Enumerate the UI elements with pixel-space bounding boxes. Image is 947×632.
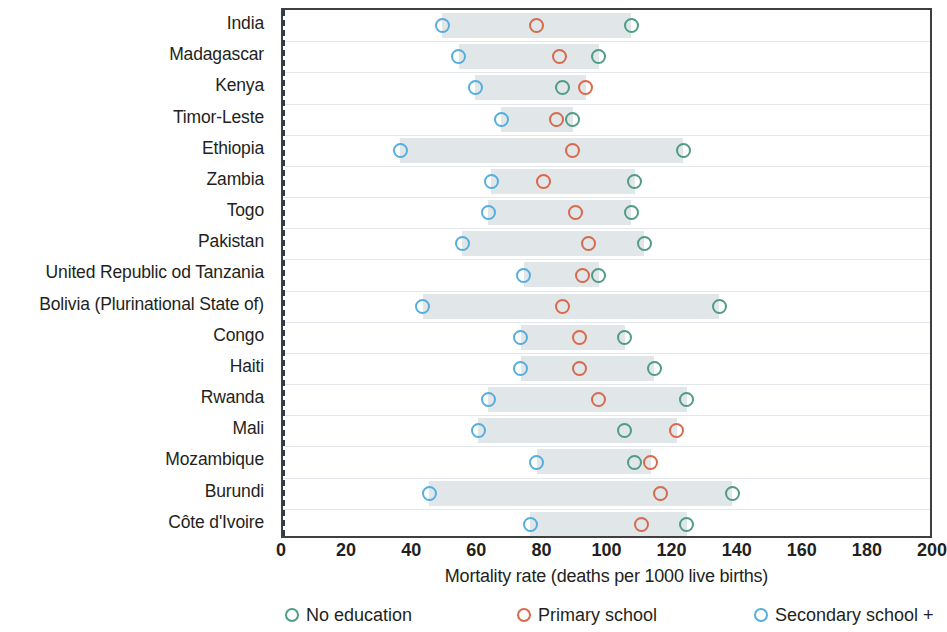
y-axis-label: Bolivia (Plurinational State of) (0, 289, 272, 320)
plot-area (281, 8, 932, 538)
x-axis-tick-label: 0 (276, 540, 286, 561)
legend-label: Primary school (538, 605, 657, 626)
data-point-marker[interactable] (653, 486, 668, 501)
chart-row (283, 197, 930, 228)
circle-outline-icon (285, 608, 299, 622)
chart-row (283, 509, 930, 538)
data-point-marker[interactable] (435, 18, 450, 33)
chart-row (283, 72, 930, 103)
plot-inner (283, 10, 930, 536)
y-axis-label: Timor-Leste (0, 102, 272, 133)
data-point-marker[interactable] (647, 361, 662, 376)
circle-outline-icon (517, 608, 531, 622)
data-point-marker[interactable] (513, 330, 528, 345)
data-point-marker[interactable] (725, 486, 740, 501)
range-band (488, 387, 687, 412)
x-axis-tick-label: 20 (336, 540, 356, 561)
data-point-marker[interactable] (627, 455, 642, 470)
data-point-marker[interactable] (565, 143, 580, 158)
y-axis-label: India (0, 8, 272, 39)
range-band (462, 231, 644, 256)
range-band (530, 512, 686, 537)
data-point-marker[interactable] (516, 268, 531, 283)
y-axis-label: Haiti (0, 351, 272, 382)
x-axis-tick-label: 200 (917, 540, 947, 561)
data-point-marker[interactable] (712, 299, 727, 314)
y-axis-label: Mozambique (0, 444, 272, 475)
y-axis-label: Mali (0, 413, 272, 444)
data-point-marker[interactable] (468, 80, 483, 95)
chart-row (283, 415, 930, 446)
chart-row (283, 135, 930, 166)
y-axis-label: Togo (0, 195, 272, 226)
y-axis-label: Madagascar (0, 39, 272, 70)
data-point-marker[interactable] (536, 174, 551, 189)
range-band (423, 294, 719, 319)
legend-item-primary-school[interactable]: Primary school (517, 605, 657, 626)
data-point-marker[interactable] (679, 392, 694, 407)
range-band (459, 44, 599, 69)
x-axis-tick-label: 120 (657, 540, 687, 561)
x-axis-tick-label: 180 (852, 540, 882, 561)
chart-row (283, 446, 930, 477)
data-point-marker[interactable] (575, 268, 590, 283)
x-axis-tick-labels: 020406080100120140160180200 (281, 540, 932, 566)
data-point-marker[interactable] (549, 112, 564, 127)
chart-row (283, 478, 930, 509)
chart-row (283, 166, 930, 197)
data-point-marker[interactable] (578, 80, 593, 95)
data-point-marker[interactable] (634, 517, 649, 532)
zero-reference-line (283, 10, 285, 536)
chart-row (283, 228, 930, 259)
data-point-marker[interactable] (572, 330, 587, 345)
data-point-marker[interactable] (627, 174, 642, 189)
data-point-marker[interactable] (676, 143, 691, 158)
data-point-marker[interactable] (624, 18, 639, 33)
legend-item-secondary-school[interactable]: Secondary school + (754, 605, 934, 626)
y-axis-label: Côte d'Ivoire (0, 507, 272, 538)
data-point-marker[interactable] (565, 112, 580, 127)
data-point-marker[interactable] (529, 455, 544, 470)
data-point-marker[interactable] (484, 174, 499, 189)
chart-row (283, 41, 930, 72)
data-point-marker[interactable] (591, 49, 606, 64)
range-band (488, 200, 631, 225)
legend-label: Secondary school + (775, 605, 934, 626)
y-axis-label: Rwanda (0, 382, 272, 413)
chart-legend: No education Primary school Secondary sc… (281, 600, 943, 630)
range-band (521, 356, 654, 381)
y-axis-label: Pakistan (0, 226, 272, 257)
circle-outline-icon (754, 608, 768, 622)
data-point-marker[interactable] (455, 236, 470, 251)
y-axis-label: Ethiopia (0, 133, 272, 164)
y-axis-label: United Republic od Tanzania (0, 257, 272, 288)
x-axis-tick-label: 100 (591, 540, 621, 561)
data-point-marker[interactable] (637, 236, 652, 251)
data-point-marker[interactable] (393, 143, 408, 158)
data-point-marker[interactable] (643, 455, 658, 470)
data-point-marker[interactable] (624, 205, 639, 220)
data-point-marker[interactable] (422, 486, 437, 501)
y-axis-label: Kenya (0, 70, 272, 101)
legend-label: No education (306, 605, 412, 626)
legend-item-no-education[interactable]: No education (285, 605, 412, 626)
x-axis-tick-label: 160 (787, 540, 817, 561)
data-point-marker[interactable] (572, 361, 587, 376)
chart-row (283, 259, 930, 290)
data-point-marker[interactable] (481, 205, 496, 220)
data-point-marker[interactable] (481, 392, 496, 407)
data-point-marker[interactable] (679, 517, 694, 532)
chart-row (283, 384, 930, 415)
data-point-marker[interactable] (494, 112, 509, 127)
x-axis-tick-label: 140 (722, 540, 752, 561)
chart-row (283, 322, 930, 353)
data-point-marker[interactable] (617, 330, 632, 345)
data-point-marker[interactable] (669, 423, 684, 438)
range-band (491, 169, 634, 194)
y-axis-label: Burundi (0, 476, 272, 507)
data-point-marker[interactable] (523, 517, 538, 532)
x-axis-tick-label: 60 (466, 540, 486, 561)
data-point-marker[interactable] (591, 268, 606, 283)
y-axis-label: Zambia (0, 164, 272, 195)
